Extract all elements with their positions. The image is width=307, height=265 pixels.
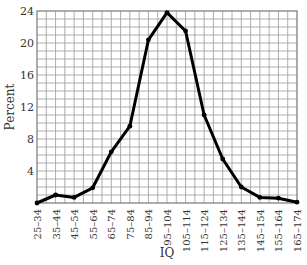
y-tick-label: 24 bbox=[20, 5, 34, 18]
data-point bbox=[146, 37, 151, 42]
data-point bbox=[165, 10, 170, 15]
x-tick-label: 35–44 bbox=[51, 209, 62, 239]
x-tick-label: 55–64 bbox=[88, 209, 99, 239]
data-point bbox=[276, 196, 281, 201]
data-point bbox=[90, 185, 95, 190]
y-tick-label: 8 bbox=[27, 133, 34, 146]
x-tick-label: 75–84 bbox=[125, 209, 136, 239]
x-tick-label: 65–74 bbox=[106, 209, 117, 239]
data-point bbox=[183, 29, 188, 34]
data-point bbox=[53, 193, 58, 198]
data-point bbox=[202, 113, 207, 118]
y-axis-label: Percent bbox=[3, 83, 17, 130]
data-point bbox=[295, 200, 300, 205]
data-point bbox=[127, 124, 132, 129]
x-tick-label: 45–54 bbox=[69, 209, 80, 239]
y-tick-label: 16 bbox=[20, 69, 34, 82]
x-tick-label: 115–124 bbox=[199, 209, 210, 252]
x-tick-label: 25–34 bbox=[32, 209, 43, 239]
data-point bbox=[72, 195, 77, 200]
y-tick-label: 20 bbox=[20, 37, 34, 50]
x-tick-label: 95–104 bbox=[162, 209, 173, 246]
x-tick-label: 105–114 bbox=[181, 209, 192, 252]
x-tick-label: 135–144 bbox=[236, 209, 247, 252]
x-tick-label: 155–164 bbox=[273, 209, 284, 252]
data-point bbox=[257, 195, 262, 200]
x-tick-label: 85–94 bbox=[143, 209, 154, 239]
x-axis-label: IQ bbox=[160, 246, 175, 260]
y-axis-ticks: 4812162024 bbox=[20, 5, 34, 178]
iq-percent-line-chart: 4812162024 25–3435–4445–5455–6465–7475–8… bbox=[0, 0, 307, 265]
data-point bbox=[35, 201, 40, 206]
x-tick-label: 145–154 bbox=[255, 209, 266, 252]
grid-lines bbox=[37, 11, 297, 203]
data-point bbox=[109, 149, 114, 154]
y-tick-label: 12 bbox=[20, 101, 34, 114]
y-tick-label: 4 bbox=[27, 165, 34, 178]
x-tick-label: 125–134 bbox=[218, 209, 229, 252]
x-tick-label: 165–174 bbox=[292, 209, 303, 252]
data-point bbox=[220, 157, 225, 162]
data-point bbox=[239, 185, 244, 190]
